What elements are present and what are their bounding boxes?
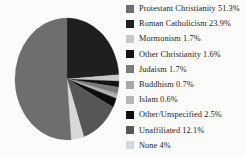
pie-slice-protestant-christianity	[15, 18, 71, 140]
legend-swatch-none	[126, 141, 134, 149]
legend-label-unaffiliated: Unaffiliated 12.1%	[139, 123, 204, 138]
legend-swatch-islam	[126, 96, 134, 104]
legend-swatch-judaism	[126, 65, 134, 73]
legend-item-mormonism[interactable]: Mormonism 1.7%	[126, 31, 246, 46]
legend-swatch-unaffiliated	[126, 126, 134, 134]
legend-item-judaism[interactable]: Judaism 1.7%	[126, 62, 246, 77]
legend-item-islam[interactable]: Islam 0.6%	[126, 92, 246, 107]
legend-label-protestant-christianity: Protestant Christianity 51.3%	[139, 1, 240, 16]
legend-label-other-unspecified: Other/Unspecified 2.5%	[139, 107, 222, 122]
legend-item-protestant-christianity[interactable]: Protestant Christianity 51.3%	[126, 1, 246, 16]
pie-chart-figure: Protestant Christianity 51.3% Roman Cath…	[0, 0, 246, 157]
legend-swatch-protestant-christianity	[126, 5, 134, 13]
legend-label-buddhism: Buddhism 0.7%	[139, 77, 194, 92]
legend-label-mormonism: Mormonism 1.7%	[139, 31, 201, 46]
legend-label-other-christianity: Other Christianity 1.6%	[139, 47, 221, 62]
pie-slice-roman-catholicism	[67, 18, 119, 79]
pie-slice-group	[15, 18, 119, 140]
legend-item-other-unspecified[interactable]: Other/Unspecified 2.5%	[126, 107, 246, 122]
legend-swatch-roman-catholicism	[126, 20, 134, 28]
legend-label-islam: Islam 0.6%	[139, 92, 178, 107]
legend-swatch-other-unspecified	[126, 111, 134, 119]
legend-item-unaffiliated[interactable]: Unaffiliated 12.1%	[126, 123, 246, 138]
legend-item-roman-catholicism[interactable]: Roman Catholicism 23.9%	[126, 16, 246, 31]
legend-swatch-mormonism	[126, 35, 134, 43]
legend-label-roman-catholicism: Roman Catholicism 23.9%	[139, 16, 231, 31]
legend-item-buddhism[interactable]: Buddhism 0.7%	[126, 77, 246, 92]
legend-swatch-other-christianity	[126, 50, 134, 58]
chart-legend: Protestant Christianity 51.3% Roman Cath…	[126, 1, 246, 156]
legend-label-none: None 4%	[139, 138, 171, 153]
legend-label-judaism: Judaism 1.7%	[139, 62, 187, 77]
legend-swatch-buddhism	[126, 81, 134, 89]
legend-item-none[interactable]: None 4%	[126, 138, 246, 153]
pie-chart-plot-area	[14, 16, 120, 142]
legend-item-other-christianity[interactable]: Other Christianity 1.6%	[126, 47, 246, 62]
pie-chart-svg	[14, 16, 120, 142]
